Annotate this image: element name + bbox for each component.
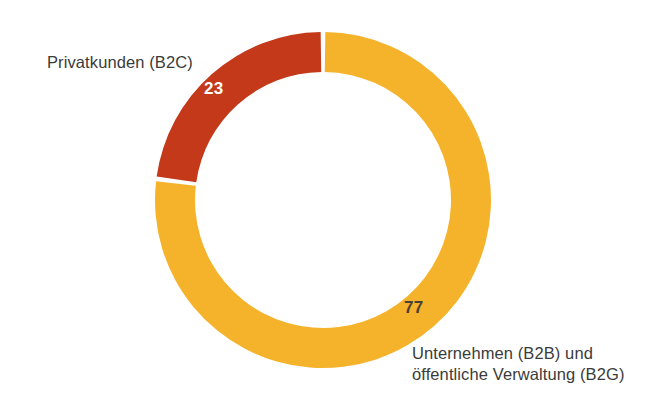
slice-label-b2b-b2g-line1: Unternehmen (B2B) und [412, 343, 625, 364]
slice-label-b2b-b2g: Unternehmen (B2B) und öffentliche Verwal… [412, 343, 625, 385]
donut-chart: Privatkunden (B2C) Unternehmen (B2B) und… [0, 0, 666, 406]
slice-value-b2c: 23 [204, 79, 224, 99]
slice-label-b2c: Privatkunden (B2C) [47, 52, 193, 73]
slice-label-b2b-b2g-line2: öffentliche Verwaltung (B2G) [412, 364, 625, 385]
slice-value-b2b-b2g: 77 [404, 298, 424, 318]
slice-label-b2c-line1: Privatkunden (B2C) [47, 53, 193, 71]
